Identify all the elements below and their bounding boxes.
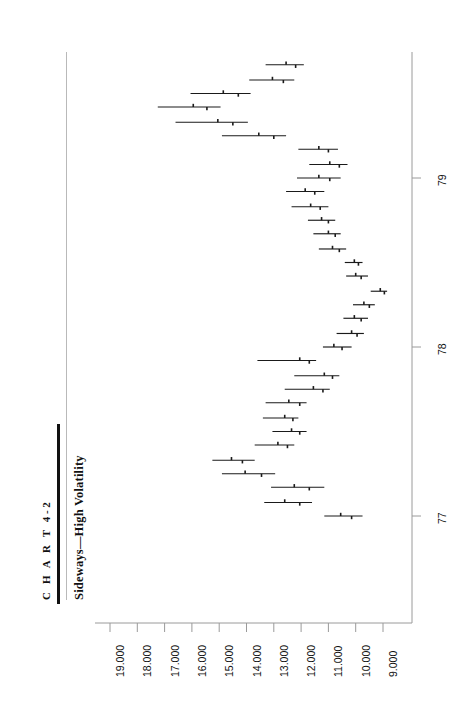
range-bar <box>337 330 364 336</box>
range-bar <box>263 415 298 421</box>
value-axis-label: 17.000 <box>169 645 181 677</box>
range-bar <box>266 400 307 406</box>
range-bar <box>285 386 330 392</box>
range-bar <box>345 259 363 265</box>
range-bar <box>212 457 254 463</box>
range-bar <box>264 499 312 505</box>
range-bar <box>313 231 340 237</box>
range-bar <box>298 146 338 152</box>
range-bar <box>272 428 306 434</box>
range-bar <box>319 246 346 252</box>
range-bar <box>353 302 375 308</box>
chart-svg <box>0 0 464 707</box>
range-bar <box>292 204 329 210</box>
value-axis-label: 14.000 <box>251 645 263 677</box>
chart-plot-area <box>0 0 464 707</box>
range-bar <box>249 77 294 83</box>
value-axis-label: 16.000 <box>196 645 208 677</box>
time-axis-label: 77 <box>436 512 448 524</box>
time-axis-label: 79 <box>436 174 448 186</box>
time-axis-label: 78 <box>436 343 448 355</box>
range-bar <box>271 484 324 490</box>
range-bar <box>286 188 324 194</box>
range-bar <box>266 62 304 68</box>
value-axis-label: 11.000 <box>332 646 344 677</box>
range-bar <box>346 273 368 279</box>
range-bar <box>191 90 251 96</box>
range-bar <box>297 175 341 181</box>
range-bar <box>294 373 339 379</box>
range-bar <box>343 315 368 321</box>
range-bar <box>222 133 286 139</box>
range-bar <box>222 471 275 477</box>
range-bar <box>308 217 335 223</box>
value-axis-label: 10.000 <box>360 645 372 677</box>
value-axis-label: 19.000 <box>114 645 126 677</box>
range-bar <box>257 357 316 363</box>
range-bar <box>371 288 387 294</box>
range-bar <box>158 104 221 110</box>
value-axis-label: 9.000 <box>387 651 399 677</box>
value-axis-label: 18.000 <box>141 645 153 677</box>
value-axis-label: 15.000 <box>223 645 235 677</box>
range-bar <box>176 119 248 125</box>
range-bar <box>323 344 352 350</box>
range-bar <box>255 442 295 448</box>
value-axis-label: 12.000 <box>305 645 317 677</box>
range-bar <box>309 161 347 167</box>
value-axis-label: 13.000 <box>278 645 290 677</box>
range-bar <box>324 513 362 519</box>
